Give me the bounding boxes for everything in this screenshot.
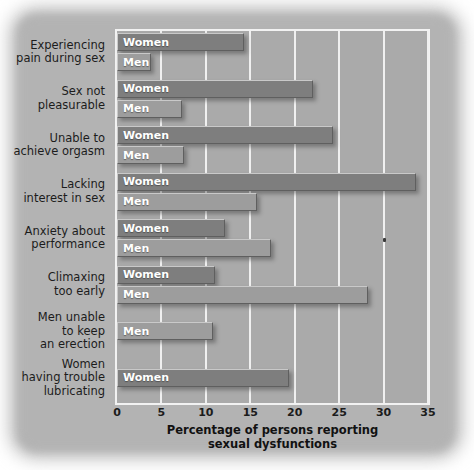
bar-slot: Men (117, 193, 428, 211)
bar-slot: Men (117, 239, 428, 257)
x-tick-20: 20 (287, 406, 302, 419)
bar-men[interactable]: Men (117, 193, 257, 211)
category-label: Experiencingpain during sex (0, 39, 105, 66)
bar-group: WomenMen (117, 80, 428, 120)
bar-slot: Women (117, 33, 428, 51)
bar-women[interactable]: Women (117, 126, 333, 144)
bar-women[interactable]: Women (117, 219, 225, 237)
bar-group: Women (117, 369, 428, 389)
category-label: Anxiety aboutperformance (0, 225, 105, 252)
bar-group: WomenMen (117, 219, 428, 259)
chart-figure: WomenMenWomenMenWomenMenWomenMenWomenMen… (0, 0, 474, 470)
bar-women[interactable]: Women (117, 266, 215, 284)
plot-area: WomenMenWomenMenWomenMenWomenMenWomenMen… (115, 29, 430, 405)
bar-series-label: Women (118, 371, 169, 384)
bar-series-label: Men (118, 195, 149, 208)
x-tick-15: 15 (243, 406, 258, 419)
bar-women[interactable]: Women (117, 80, 313, 98)
bar-women[interactable]: Women (117, 173, 416, 191)
bar-slot: Women (117, 80, 428, 98)
image-artifact-speck (383, 238, 386, 242)
x-tick-25: 25 (331, 406, 346, 419)
category-label: Men unableto keepan erection (0, 311, 105, 352)
bar-slot: Women (117, 126, 428, 144)
x-tick-35: 35 (420, 406, 435, 419)
x-axis-title: Percentage of persons reportingsexual dy… (115, 423, 430, 451)
x-axis-title-line2: sexual dysfunctions (115, 437, 430, 451)
bar-slot: Women (117, 369, 428, 387)
bar-men[interactable]: Men (117, 100, 182, 118)
bar-men[interactable]: Men (117, 53, 151, 71)
category-label: Womenhaving troublelubricating (0, 358, 105, 399)
bar-series-label: Women (118, 36, 169, 49)
bar-slot: Men (117, 146, 428, 164)
bar-women[interactable]: Women (117, 369, 289, 387)
bar-groups: WomenMenWomenMenWomenMenWomenMenWomenMen… (117, 31, 428, 403)
category-label: Climaxingtoo early (0, 271, 105, 298)
x-tick-10: 10 (198, 406, 213, 419)
category-label: Unable toachieve orgasm (0, 132, 105, 159)
bar-slot: Men (117, 322, 428, 340)
bar-series-label: Women (118, 268, 169, 281)
bar-series-label: Men (118, 242, 149, 255)
bar-series-label: Men (118, 56, 149, 69)
bar-slot: Women (117, 173, 428, 191)
x-axis-ticks: 05101520253035 (115, 406, 430, 422)
bar-series-label: Men (118, 288, 149, 301)
bar-women[interactable]: Women (117, 33, 244, 51)
x-tick-30: 30 (376, 406, 391, 419)
bar-slot: Men (117, 286, 428, 304)
bar-group: Men (117, 322, 428, 342)
bar-slot: Men (117, 53, 428, 71)
category-label: Lackinginterest in sex (0, 178, 105, 205)
bar-series-label: Men (118, 102, 149, 115)
bar-men[interactable]: Men (117, 239, 271, 257)
bar-series-label: Men (118, 149, 149, 162)
bar-group: WomenMen (117, 126, 428, 166)
bar-group: WomenMen (117, 173, 428, 213)
bar-slot: Women (117, 219, 428, 237)
x-tick-5: 5 (158, 406, 166, 419)
x-axis-title-line1: Percentage of persons reporting (115, 423, 430, 437)
category-label: Sex notpleasurable (0, 85, 105, 112)
bar-series-label: Women (118, 175, 169, 188)
bar-slot: Women (117, 266, 428, 284)
bar-men[interactable]: Men (117, 146, 184, 164)
bar-group: WomenMen (117, 266, 428, 306)
bar-series-label: Men (118, 325, 149, 338)
x-tick-0: 0 (113, 406, 121, 419)
bar-men[interactable]: Men (117, 286, 368, 304)
bar-series-label: Women (118, 82, 169, 95)
bar-series-label: Women (118, 129, 169, 142)
bar-group: WomenMen (117, 33, 428, 73)
bar-men[interactable]: Men (117, 322, 213, 340)
bar-series-label: Women (118, 222, 169, 235)
bar-slot: Men (117, 100, 428, 118)
category-axis-labels: Experiencingpain during sexSex notpleasu… (0, 29, 110, 405)
